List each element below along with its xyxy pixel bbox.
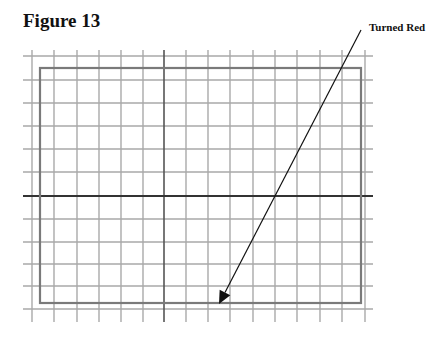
grid-lines	[23, 50, 373, 322]
arrow-pointer	[219, 30, 361, 304]
arrow-shaft	[225, 30, 361, 292]
grid-diagram	[0, 0, 443, 340]
